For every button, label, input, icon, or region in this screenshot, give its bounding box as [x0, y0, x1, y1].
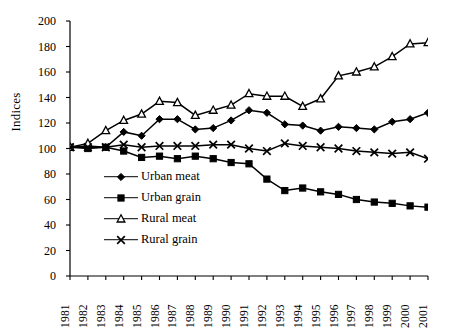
x-axis-tick-label: 1989: [202, 282, 214, 328]
legend-marker-hollow-triangle-icon: [104, 211, 138, 227]
y-axis-tick-label: 80: [30, 168, 56, 180]
legend-marker-x-cross-icon: [104, 232, 138, 248]
x-axis-tick-label: 1995: [310, 282, 322, 328]
legend-item-rural-meat[interactable]: Rural meat: [104, 208, 232, 229]
data-point-marker: [210, 156, 216, 162]
data-point-marker: [317, 127, 324, 134]
chart-container: Indices 020406080100120140160180200 1981…: [0, 0, 456, 328]
x-axis-tick-label: 1984: [113, 282, 125, 328]
x-axis-tick-label: 1999: [381, 282, 393, 328]
chart-legend: Urban meatUrban grainRural meatRural gra…: [104, 166, 232, 250]
x-axis-tick-label: 1996: [328, 282, 340, 328]
data-point-marker: [353, 196, 359, 202]
data-point-marker: [156, 97, 164, 104]
data-point-marker: [228, 159, 234, 165]
data-point-marker: [318, 189, 324, 195]
x-axis-tick-label: 1986: [149, 282, 161, 328]
data-point-marker: [335, 191, 341, 197]
y-axis-tick-label: 120: [30, 117, 56, 129]
y-axis-tick-label: 140: [30, 92, 56, 104]
data-point-marker: [424, 38, 428, 45]
y-axis-tick-label: 0: [30, 270, 56, 282]
data-point-marker: [388, 53, 396, 60]
data-point-marker: [117, 173, 124, 180]
y-axis-tick-label: 100: [30, 143, 56, 155]
data-point-marker: [353, 125, 360, 132]
legend-label: Urban meat: [138, 169, 200, 184]
data-point-marker: [139, 154, 145, 160]
data-point-marker: [228, 117, 235, 124]
x-axis-tick-label: 1985: [131, 282, 143, 328]
data-point-marker: [389, 200, 395, 206]
data-point-marker: [138, 110, 146, 117]
x-axis-tick-label: 1990: [220, 282, 232, 328]
legend-label: Rural meat: [138, 211, 196, 226]
data-point-marker: [371, 199, 377, 205]
y-axis-tick-label: 20: [30, 245, 56, 257]
data-point-marker: [425, 204, 428, 210]
data-point-marker: [371, 126, 378, 133]
legend-label: Rural grain: [138, 232, 198, 247]
data-point-marker: [192, 153, 198, 159]
data-point-marker: [227, 101, 235, 108]
y-axis-tick-label: 60: [30, 194, 56, 206]
data-point-marker: [121, 148, 127, 154]
y-axis-tick-label: 180: [30, 41, 56, 53]
legend-item-rural-grain[interactable]: Rural grain: [104, 229, 232, 250]
data-point-marker: [389, 118, 396, 125]
legend-marker-filled-square-icon: [104, 190, 138, 206]
data-point-marker: [407, 203, 413, 209]
x-axis-tick-label: 1997: [345, 282, 357, 328]
legend-item-urban-meat[interactable]: Urban meat: [104, 166, 232, 187]
data-point-marker: [424, 109, 428, 116]
y-axis-title: Indices: [8, 52, 24, 172]
x-axis-tick-label: 1981: [59, 282, 71, 328]
data-point-marker: [335, 123, 342, 130]
legend-marker-filled-diamond-icon: [104, 169, 138, 185]
data-point-marker: [282, 187, 288, 193]
x-axis-tick-labels: 1981198219831984198519861987198819891990…: [70, 280, 428, 328]
data-point-marker: [246, 161, 252, 167]
x-axis-tick-label: 2001: [417, 282, 429, 328]
x-axis-tick-label: 1987: [166, 282, 178, 328]
x-axis-tick-label: 1994: [292, 282, 304, 328]
data-point-marker: [117, 214, 125, 221]
legend-label: Urban grain: [138, 190, 201, 205]
x-axis-tick-label: 1992: [256, 282, 268, 328]
data-point-marker: [407, 116, 414, 123]
data-point-marker: [174, 156, 180, 162]
x-axis-tick-label: 1998: [363, 282, 375, 328]
legend-item-urban-grain[interactable]: Urban grain: [104, 187, 232, 208]
x-axis-tick-label: 1988: [184, 282, 196, 328]
data-point-marker: [264, 176, 270, 182]
data-point-marker: [156, 153, 162, 159]
data-point-marker: [102, 126, 110, 133]
data-point-marker: [263, 109, 270, 116]
data-point-marker: [245, 89, 253, 96]
data-point-marker: [299, 122, 306, 129]
data-point-marker: [192, 126, 199, 133]
data-point-marker: [245, 107, 252, 114]
data-point-marker: [174, 116, 181, 123]
data-point-marker: [210, 125, 217, 132]
x-axis-tick-label: 1982: [77, 282, 89, 328]
y-axis-tick-label: 200: [30, 15, 56, 27]
data-point-marker: [370, 63, 378, 70]
x-axis-tick-label: 1993: [274, 282, 286, 328]
x-axis-tick-label: 1991: [238, 282, 250, 328]
x-axis-tick-label: 1983: [95, 282, 107, 328]
y-axis-tick-labels: 020406080100120140160180200: [28, 0, 56, 328]
data-point-marker: [118, 194, 124, 200]
x-axis-tick-label: 2000: [399, 282, 411, 328]
data-point-marker: [117, 236, 125, 244]
y-axis-tick-label: 160: [30, 66, 56, 78]
data-point-marker: [300, 185, 306, 191]
y-axis-tick-label: 40: [30, 219, 56, 231]
data-point-marker: [281, 121, 288, 128]
